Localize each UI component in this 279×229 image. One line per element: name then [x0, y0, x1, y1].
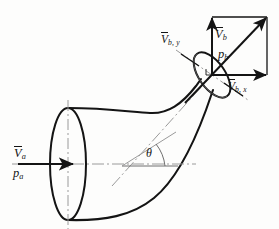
label-outlet-velocity-x: Vb, x [228, 79, 247, 93]
figure-container: Va pa Vb, y Vb pb Vb, x θ [0, 0, 279, 229]
label-inlet-velocity: Va [14, 146, 26, 161]
label-outlet-velocity-y: Vb, y [161, 32, 180, 46]
label-inlet-pressure: pa [13, 167, 24, 181]
pipe-bend-diagram [0, 0, 279, 229]
label-angle-theta: θ [146, 147, 152, 159]
label-outlet-velocity: Vb [215, 27, 227, 42]
label-outlet-pressure: pb [218, 48, 229, 62]
angle-arc [156, 144, 165, 166]
